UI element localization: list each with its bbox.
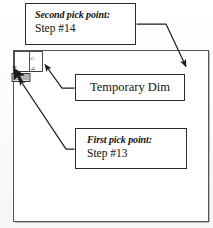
callout-temporary-dim: Temporary Dim: [75, 74, 185, 101]
callout-first-pick-point-detail: Step #13: [87, 148, 186, 160]
dimension-value-h: h: [29, 57, 35, 60]
callout-first-pick-point-emphasis: First pick point:: [87, 135, 186, 145]
callout-first-pick-point: First pick point: Step #13: [75, 128, 187, 169]
dimension-value-b: b: [30, 67, 36, 70]
svg-text:h: h: [29, 57, 35, 60]
callout-second-pick-point-detail: Step #14: [35, 23, 135, 35]
svg-text:b: b: [30, 67, 36, 70]
callout-second-pick-point-emphasis: Second pick point:: [35, 10, 135, 20]
callout-second-pick-point: Second pick point: Step #14: [25, 3, 136, 45]
cad-tutorial-figure: h b Second pick point: Step #14 Temporar…: [0, 0, 213, 228]
callout-temporary-dim-detail: Temporary Dim: [90, 81, 170, 94]
